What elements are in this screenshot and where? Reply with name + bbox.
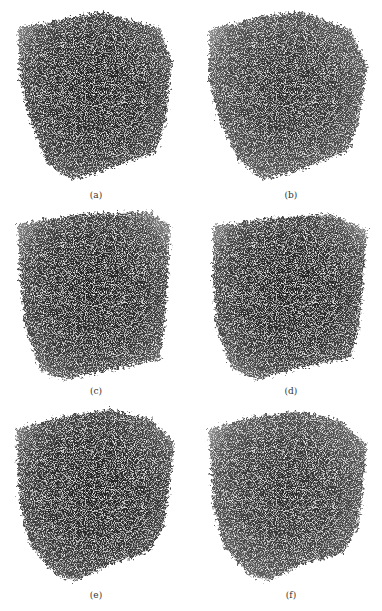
caption-e: (e) [76,590,116,600]
panel-f: (f) [191,405,382,611]
cube-rendering-c [0,200,191,390]
panel-a: (a) [0,0,191,200]
cube-rendering-f [191,405,382,595]
panel-e: (e) [0,405,191,611]
caption-c: (c) [76,386,116,396]
figure-six-panel-cube-renderings: (a) (b) (c) (d) (e) (f) [0,0,382,611]
panel-d: (d) [191,200,382,400]
panel-b: (b) [191,0,382,200]
caption-d: (d) [271,386,311,396]
cube-rendering-a [0,0,191,190]
cube-rendering-b [191,0,382,190]
cube-rendering-d [191,200,382,390]
panel-c: (c) [0,200,191,400]
caption-f: (f) [271,590,311,600]
caption-a: (a) [76,190,116,200]
caption-b: (b) [271,190,311,200]
cube-rendering-e [0,405,191,595]
